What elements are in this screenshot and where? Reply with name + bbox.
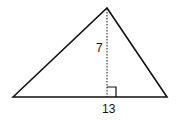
- triangle-outline: [13, 8, 167, 97]
- right-angle-marker: [107, 87, 116, 97]
- height-label: 7: [96, 42, 103, 54]
- triangle-figure: [0, 0, 180, 120]
- base-label: 13: [102, 103, 115, 115]
- triangle-diagram: 7 13: [0, 0, 180, 120]
